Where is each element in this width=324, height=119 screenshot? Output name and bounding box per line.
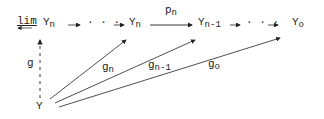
node-dots-1: · · · — [87, 17, 120, 28]
node-yn: Yn — [129, 17, 141, 28]
edge-label-g: g — [27, 58, 34, 69]
edge-label-pn: pn — [165, 5, 177, 16]
node-base: Y — [43, 16, 50, 28]
node-sub: n-1 — [205, 20, 221, 30]
arrow-gn — [50, 40, 126, 99]
node-lim-yn: Yn — [43, 17, 55, 28]
commutative-diagram: lim Yn · · · Yn pn Yn-1 · · · Yo g gn gn… — [0, 0, 324, 119]
node-sub: o — [299, 20, 304, 30]
edge-base: g — [148, 59, 155, 71]
node-base: Y — [129, 16, 136, 28]
edge-sub: n — [172, 8, 177, 18]
edge-label-gn: gn — [102, 62, 114, 73]
lim-label: lim — [17, 16, 37, 27]
edge-base: g — [208, 58, 215, 70]
node-yn-minus-1: Yn-1 — [198, 17, 221, 28]
node-sub: n — [136, 20, 141, 30]
edge-base: p — [165, 4, 172, 16]
node-base: Y — [198, 16, 205, 28]
edge-sub: o — [215, 62, 220, 72]
edge-sub: n — [109, 65, 114, 75]
node-sub: n — [50, 20, 55, 30]
edge-label-gn-minus-1: gn-1 — [148, 60, 171, 71]
node-y0: Yo — [292, 17, 304, 28]
edge-base: g — [102, 61, 109, 73]
edge-sub: n-1 — [155, 63, 171, 73]
node-dots-2: · · · — [246, 17, 279, 28]
edge-label-g0: go — [208, 59, 220, 70]
node-base: Y — [292, 16, 299, 28]
node-y: Y — [36, 101, 43, 112]
